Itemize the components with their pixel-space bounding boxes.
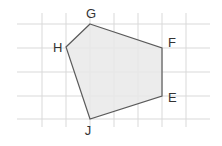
vertex-label-g: G (86, 6, 96, 21)
polygon-diagram: G F E J H (0, 0, 222, 146)
vertex-label-h: H (53, 40, 62, 55)
pentagon-ghfej (66, 24, 162, 119)
vertex-label-f: F (168, 35, 176, 50)
vertex-label-e: E (168, 90, 177, 105)
vertex-label-j: J (85, 123, 92, 138)
